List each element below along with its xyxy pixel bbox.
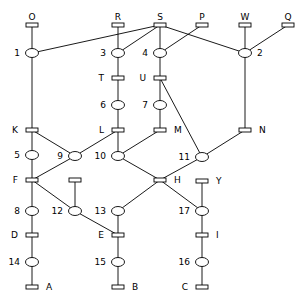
place-label: 4 xyxy=(142,48,148,58)
transition-label: E xyxy=(98,230,104,240)
transition-bar xyxy=(112,23,124,27)
transition-label: U xyxy=(139,73,146,83)
place-16: 16 xyxy=(179,257,209,267)
transition-label: B xyxy=(132,282,138,292)
transition-F: F xyxy=(13,175,38,185)
place-4: 4 xyxy=(142,48,166,58)
place-8: 8 xyxy=(14,206,38,216)
transition-bar xyxy=(239,23,251,27)
transition-bar xyxy=(154,23,166,27)
arc-S-1 xyxy=(32,25,160,53)
place-label: 3 xyxy=(100,48,106,58)
place-label: 6 xyxy=(100,100,106,110)
place-label: 10 xyxy=(95,151,107,161)
transition-bar xyxy=(196,23,208,27)
place-ellipse xyxy=(112,152,125,161)
place-ellipse xyxy=(112,258,125,267)
transition-label: S xyxy=(157,12,163,22)
place-7: 7 xyxy=(142,100,166,110)
transition-bar xyxy=(196,179,208,183)
place-ellipse xyxy=(239,49,252,58)
transition-label: O xyxy=(28,12,35,22)
transition-Y: Y xyxy=(196,176,222,186)
place-ellipse xyxy=(69,152,82,161)
transition-label: M xyxy=(174,125,182,135)
transition-label: D xyxy=(11,230,18,240)
transition-bar xyxy=(154,76,166,80)
transition-bar xyxy=(239,128,251,132)
place-ellipse xyxy=(69,207,82,216)
transition-bar xyxy=(282,23,294,27)
place-label: 14 xyxy=(9,257,21,267)
transition-bar xyxy=(112,233,124,237)
arc-N-11 xyxy=(202,130,245,157)
transition-K: K xyxy=(12,125,38,135)
transition-bar xyxy=(154,128,166,132)
place-ellipse xyxy=(26,207,39,216)
transition-bar xyxy=(26,285,38,289)
arc-9-F xyxy=(32,156,75,180)
place-label: 13 xyxy=(95,206,106,216)
transition-S: S xyxy=(154,12,166,27)
place-label: 12 xyxy=(52,206,63,216)
place-11: 11 xyxy=(179,152,209,162)
transition-D: D xyxy=(11,230,38,240)
place-ellipse xyxy=(26,151,39,160)
place-label: 11 xyxy=(179,152,190,162)
place-label: 17 xyxy=(179,206,190,216)
transition-label: A xyxy=(46,282,53,292)
transition-label: N xyxy=(259,125,266,135)
arc-Q-2 xyxy=(245,25,288,53)
transition-label: I xyxy=(216,230,219,240)
place-label: 7 xyxy=(142,100,148,110)
transition-bar xyxy=(196,285,208,289)
place-10: 10 xyxy=(95,151,125,161)
transition-bar xyxy=(26,178,38,182)
transition-W: W xyxy=(239,12,251,27)
transition-bar xyxy=(26,128,38,132)
transition-I: I xyxy=(196,230,219,240)
place-12: 12 xyxy=(52,206,82,216)
transition-bar xyxy=(112,128,124,132)
transition-label: L xyxy=(99,125,104,135)
transition-O: O xyxy=(26,12,38,27)
transition-bar xyxy=(112,76,124,80)
place-ellipse xyxy=(196,258,209,267)
transition-P: P xyxy=(196,12,208,27)
transition-R: R xyxy=(112,12,124,27)
place-ellipse xyxy=(26,258,39,267)
transition-unlabeled xyxy=(69,178,81,182)
transition-bar xyxy=(69,178,81,182)
place-15: 15 xyxy=(95,257,125,267)
place-ellipse xyxy=(112,207,125,216)
transition-bar xyxy=(196,233,208,237)
arc-H-13 xyxy=(118,180,160,211)
transition-label: C xyxy=(182,282,188,292)
place-label: 2 xyxy=(257,48,263,58)
place-5: 5 xyxy=(14,150,38,160)
place-ellipse xyxy=(112,49,125,58)
transition-bar xyxy=(26,233,38,237)
transition-label: T xyxy=(98,73,105,83)
place-17: 17 xyxy=(179,206,209,216)
transition-label: W xyxy=(241,12,250,22)
transition-T: T xyxy=(98,73,125,83)
place-ellipse xyxy=(112,101,125,110)
transition-label: Q xyxy=(284,12,291,22)
place-ellipse xyxy=(154,49,167,58)
arc-U-11 xyxy=(160,78,202,157)
place-label: 5 xyxy=(14,150,20,160)
transition-label: P xyxy=(199,12,205,22)
place-14: 14 xyxy=(9,257,39,267)
place-ellipse xyxy=(154,101,167,110)
nodes-layer: ORSPWQTUKLMNFHYDEIABC1342675910118121317… xyxy=(9,12,294,292)
place-ellipse xyxy=(26,49,39,58)
transition-label: K xyxy=(12,125,19,135)
transition-bar xyxy=(112,285,124,289)
arc-10-H xyxy=(118,156,160,180)
arc-K-9 xyxy=(32,130,75,156)
transition-label: F xyxy=(13,175,18,185)
transition-Q: Q xyxy=(282,12,294,27)
transition-label: H xyxy=(174,175,181,185)
arc-P-4 xyxy=(160,25,202,53)
